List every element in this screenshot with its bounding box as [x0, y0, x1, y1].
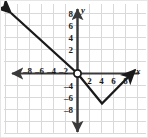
y-tick-label-2: 2 — [59, 46, 73, 55]
x-tick-label-6: 6 — [108, 77, 119, 86]
x-tick-label-2: 2 — [84, 77, 95, 86]
y-tick-label--4: –4 — [54, 82, 73, 91]
y-tick-label-8: 8 — [59, 10, 73, 19]
x-tick-label-4: 4 — [96, 77, 107, 86]
y-tick-label--6: –6 — [54, 94, 73, 103]
y-tick-label--8: –8 — [54, 106, 73, 115]
y-tick-label-4: 4 — [59, 34, 73, 43]
x-tick-label-8: 8 — [120, 77, 131, 86]
x-axis-label: x — [136, 67, 141, 76]
y-tick-label-6: 6 — [59, 22, 73, 31]
x-tick-label--2: –2 — [57, 67, 70, 76]
graph-figure: –8 –6 –4 –2 2 4 6 8 8 6 4 2 –4 –6 –8 y x — [0, 0, 148, 138]
y-axis-label: y — [81, 6, 85, 15]
open-circle-marker-origin — [74, 70, 81, 77]
